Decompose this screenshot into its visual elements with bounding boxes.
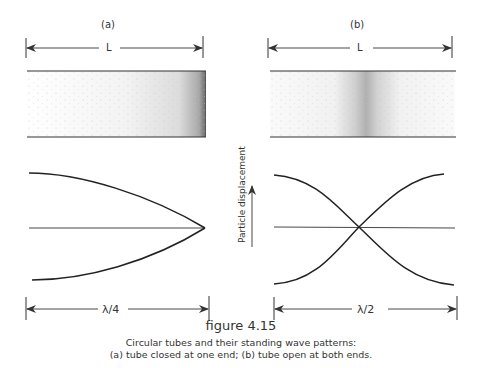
standing-wave-a <box>29 173 205 280</box>
length-label-a: L <box>106 43 112 53</box>
panel-b-label: (b) <box>350 20 364 30</box>
figure-number: figure 4.15 <box>0 318 482 333</box>
length-label-b: L <box>357 43 363 53</box>
panel-a-label: (a) <box>101 20 115 30</box>
tube-open-both-ends <box>270 71 456 137</box>
tube-closed-one-end <box>27 71 206 137</box>
particle-displacement-label: Particle displacement <box>237 146 247 243</box>
length-dimension-a <box>26 36 203 58</box>
figure-caption-line-2: (a) tube closed at one end; (b) tube ope… <box>0 349 482 360</box>
figure-caption-line-1: Circular tubes and their standing wave p… <box>0 337 482 348</box>
standing-wave-b <box>274 174 455 285</box>
wavelength-label-b: λ/2 <box>357 304 374 315</box>
wavelength-label-a: λ/4 <box>102 304 119 315</box>
